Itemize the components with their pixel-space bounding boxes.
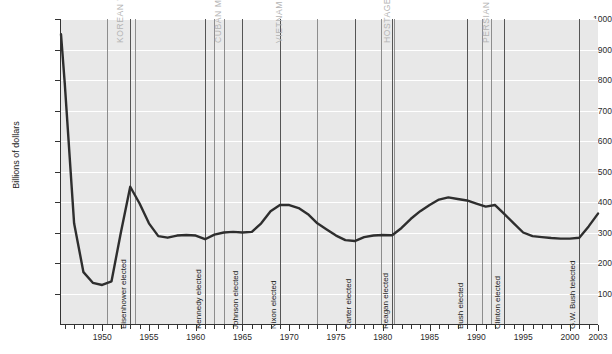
election-label: Kennedy elected: [194, 269, 203, 329]
x-tick-minor: [83, 325, 84, 329]
x-tick-minor: [252, 325, 253, 329]
x-tick-major: [149, 325, 150, 331]
x-tick-minor: [458, 325, 459, 329]
x-tick-minor: [345, 325, 346, 329]
line-series: [61, 19, 598, 324]
x-tick-major: [430, 325, 431, 331]
x-tick-minor: [486, 325, 487, 329]
x-tick-minor: [411, 325, 412, 329]
x-tick-minor: [308, 325, 309, 329]
x-tick-minor: [542, 325, 543, 329]
x-tick-label: 1995: [514, 332, 533, 342]
x-tick-minor: [205, 325, 206, 329]
x-tick-minor: [373, 325, 374, 329]
x-tick-major: [289, 325, 290, 331]
plot-area: KOREAN WARCUBAN MISSILE CRISISVIETNAM WA…: [61, 19, 598, 324]
x-tick-minor: [514, 325, 515, 329]
x-tick-minor: [467, 325, 468, 329]
x-tick-label: 1990: [467, 332, 486, 342]
x-tick-minor: [158, 325, 159, 329]
election-label: Johnson elected: [231, 271, 240, 329]
x-tick-minor: [140, 325, 141, 329]
x-tick-major: [523, 325, 524, 331]
election-label: Bush elected: [456, 283, 465, 329]
x-tick-label: 1985: [420, 332, 439, 342]
x-tick-minor: [579, 325, 580, 329]
war-label: CUBAN MISSILE CRISIS: [213, 0, 223, 43]
x-tick-minor: [327, 325, 328, 329]
x-tick-label: 1980: [373, 332, 392, 342]
x-tick-minor: [364, 325, 365, 329]
x-tick-major: [383, 325, 384, 331]
x-tick-minor: [280, 325, 281, 329]
x-tick-label: 1965: [233, 332, 252, 342]
series-line: [61, 34, 598, 285]
x-tick-minor: [448, 325, 449, 329]
x-tick-major: [242, 325, 243, 331]
x-tick-label: 2000: [560, 332, 579, 342]
war-label: PERSIAN GULF WAR: [481, 0, 491, 43]
chart-figure: Billions of dollars 10020030040050060070…: [0, 0, 612, 354]
x-tick-major: [570, 325, 571, 331]
x-tick-minor: [121, 325, 122, 329]
x-tick-label: 1960: [186, 332, 205, 342]
x-tick-minor: [271, 325, 272, 329]
x-tick-minor: [74, 325, 75, 329]
election-label: Clinton elected: [493, 276, 502, 329]
x-tick-label: 2003: [589, 332, 608, 342]
x-tick-minor: [168, 325, 169, 329]
x-tick-minor: [112, 325, 113, 329]
x-tick-minor: [533, 325, 534, 329]
x-tick-minor: [392, 325, 393, 329]
x-tick-minor: [504, 325, 505, 329]
election-label: Reagan elected: [381, 273, 390, 329]
x-tick-minor: [65, 325, 66, 329]
x-tick-major: [336, 325, 337, 331]
x-tick-minor: [589, 325, 590, 329]
x-tick-minor: [261, 325, 262, 329]
x-tick-label: 1975: [327, 332, 346, 342]
x-tick-label: 1970: [280, 332, 299, 342]
x-tick-label: 1955: [139, 332, 158, 342]
x-tick-minor: [317, 325, 318, 329]
x-tick-major: [476, 325, 477, 331]
x-tick-minor: [402, 325, 403, 329]
x-tick-minor: [186, 325, 187, 329]
x-tick-label: 1950: [93, 332, 112, 342]
election-label: Nixon elected: [269, 281, 278, 329]
x-tick-minor: [214, 325, 215, 329]
x-tick-major: [196, 325, 197, 331]
war-label: HOSTAGES IN IRAN: [382, 0, 392, 43]
x-tick-minor: [439, 325, 440, 329]
election-label: G.W. Bush telected: [568, 261, 577, 329]
x-tick-minor: [561, 325, 562, 329]
y-axis-line: [60, 19, 61, 325]
x-tick-major: [102, 325, 103, 331]
x-tick-minor: [495, 325, 496, 329]
x-tick-minor: [224, 325, 225, 329]
x-tick-minor: [355, 325, 356, 329]
x-tick-major: [598, 325, 599, 331]
y-axis-title: Billions of dollars: [11, 121, 21, 189]
x-tick-minor: [299, 325, 300, 329]
election-label: Eisenhower elected: [119, 259, 128, 329]
x-tick-minor: [130, 325, 131, 329]
x-tick-minor: [420, 325, 421, 329]
x-tick-minor: [177, 325, 178, 329]
war-label: KOREAN WAR: [115, 0, 125, 43]
x-tick-minor: [551, 325, 552, 329]
x-tick-minor: [93, 325, 94, 329]
war-label: VIETNAM WAR: [274, 0, 284, 43]
election-label: Carter elected: [344, 279, 353, 329]
x-axis-line: [60, 324, 598, 325]
x-tick-minor: [233, 325, 234, 329]
